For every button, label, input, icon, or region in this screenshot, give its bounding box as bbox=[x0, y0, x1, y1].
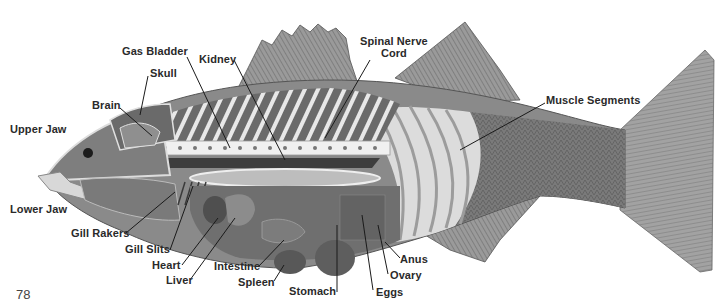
label-eggs: Eggs bbox=[376, 286, 403, 298]
label-gill-rakers: Gill Rakers bbox=[71, 227, 130, 239]
label-spinal-nerve-cord-line2: Cord bbox=[360, 47, 428, 59]
heart bbox=[203, 196, 227, 224]
label-kidney: Kidney bbox=[199, 53, 236, 65]
label-gas-bladder: Gas Bladder bbox=[122, 45, 188, 57]
scaled-skin-section bbox=[455, 112, 625, 226]
label-spinal-nerve-cord: Spinal Nerve Cord bbox=[360, 35, 428, 59]
kidney bbox=[160, 158, 380, 168]
label-spleen: Spleen bbox=[238, 276, 275, 288]
label-ovary: Ovary bbox=[390, 269, 422, 281]
eye bbox=[83, 148, 93, 158]
label-intestine: Intestine bbox=[214, 260, 260, 272]
brain bbox=[120, 123, 160, 148]
label-anus: Anus bbox=[400, 253, 428, 265]
label-gill-slits: Gill Slits bbox=[125, 243, 170, 255]
vertebrae bbox=[163, 146, 377, 150]
label-lower-jaw: Lower Jaw bbox=[10, 203, 67, 215]
page-number: 78 bbox=[16, 287, 30, 302]
caudal-fin bbox=[620, 50, 714, 272]
label-heart: Heart bbox=[152, 259, 181, 271]
label-liver: Liver bbox=[166, 274, 193, 286]
spleen bbox=[274, 250, 306, 274]
label-skull: Skull bbox=[150, 67, 177, 79]
label-stomach: Stomach bbox=[289, 285, 336, 297]
stomach bbox=[315, 240, 355, 276]
label-muscle-segments: Muscle Segments bbox=[546, 94, 640, 106]
label-brain: Brain bbox=[92, 99, 121, 111]
label-upper-jaw: Upper Jaw bbox=[10, 123, 67, 135]
gas-bladder bbox=[190, 169, 380, 187]
label-spinal-nerve-cord-line1: Spinal Nerve bbox=[360, 35, 428, 47]
